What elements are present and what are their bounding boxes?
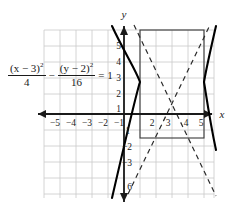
equation-equals: = 1 bbox=[97, 70, 113, 82]
x-tick--5: −5 bbox=[50, 118, 60, 128]
x-axis-arrow-left bbox=[38, 110, 46, 118]
equation-right-numerator: (y − 2)2 bbox=[58, 62, 96, 74]
y-axis-label: y bbox=[121, 8, 127, 20]
x-tick-3: 3 bbox=[166, 118, 171, 128]
hyperbola-figure: −5 −4 −3 −2 −1 2 3 4 5 5 4 3 2 1 1 −2 −3… bbox=[0, 0, 234, 222]
equation-right-denominator: 16 bbox=[69, 77, 84, 89]
equation-annotation: (x − 3)2 4 − (y − 2)2 16 = 1 bbox=[8, 62, 116, 89]
x-tick--3: −3 bbox=[82, 118, 92, 128]
equation-right-fraction: (y − 2)2 16 bbox=[58, 62, 96, 89]
equation-left-exponent: 2 bbox=[40, 61, 44, 69]
x-tick--4: −4 bbox=[66, 118, 76, 128]
x-tick-5: 5 bbox=[199, 118, 204, 128]
y-tick-3: 3 bbox=[116, 73, 121, 83]
equation-left-numerator: (x − 3)2 bbox=[8, 62, 46, 74]
y-tick-5: 5 bbox=[116, 41, 121, 51]
y-tick-2: 2 bbox=[116, 89, 121, 99]
x-tick-2: 2 bbox=[150, 118, 155, 128]
x-tick-4: 4 bbox=[184, 118, 189, 128]
y-tick--1: 1 bbox=[125, 126, 130, 136]
graph-canvas: −5 −4 −3 −2 −1 2 3 4 5 5 4 3 2 1 1 −2 −3… bbox=[0, 0, 234, 222]
equation-left-denominator: 4 bbox=[22, 77, 32, 89]
y-tick--3: −3 bbox=[122, 158, 132, 168]
equation-operator: − bbox=[48, 70, 56, 82]
equation-right-exponent: 2 bbox=[90, 61, 94, 69]
x-tick--2: −2 bbox=[98, 118, 108, 128]
y-tick--2: −2 bbox=[122, 142, 132, 152]
y-tick-4: 4 bbox=[116, 57, 121, 67]
x-tick--1: −1 bbox=[114, 118, 124, 128]
x-axis-label: x bbox=[219, 108, 225, 120]
hyperbola-curves bbox=[112, 26, 216, 198]
y-axis-arrow-down bbox=[120, 193, 128, 202]
equation-left-fraction: (x − 3)2 4 bbox=[8, 62, 46, 89]
y-tick--6: 6 bbox=[127, 182, 132, 192]
y-axis-arrow bbox=[120, 26, 128, 35]
y-tick-1: 1 bbox=[116, 104, 121, 114]
